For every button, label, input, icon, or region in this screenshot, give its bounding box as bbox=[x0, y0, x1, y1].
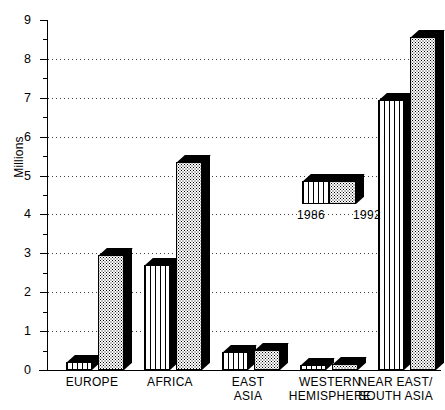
x-label-africa: AFRICA bbox=[127, 376, 213, 390]
y-minor-tick-5-5 bbox=[43, 156, 47, 157]
legend: 1986 1992 bbox=[297, 175, 417, 227]
bar-front-face bbox=[176, 162, 202, 370]
bar-africa-1992[interactable] bbox=[176, 162, 202, 370]
y-minor-tick-7-5 bbox=[43, 78, 47, 79]
y-tick-9: 9 bbox=[40, 20, 47, 21]
legend-label-1992: 1992 bbox=[353, 208, 381, 222]
y-tick-label-9: 9 bbox=[24, 14, 31, 27]
y-tick-label-4: 4 bbox=[24, 208, 31, 221]
bar-side-face bbox=[202, 155, 210, 370]
bar-africa-1986[interactable] bbox=[144, 265, 170, 370]
bar-east-asia-1992[interactable] bbox=[254, 350, 280, 370]
y-minor-tick-0-5 bbox=[43, 351, 47, 352]
y-tick-1: 1 bbox=[40, 331, 47, 332]
bar-europe-1986[interactable] bbox=[66, 362, 92, 370]
legend-side-face bbox=[356, 174, 364, 204]
y-axis-line bbox=[47, 20, 48, 370]
y-minor-tick-2-5 bbox=[43, 273, 47, 274]
y-tick-2: 2 bbox=[40, 292, 47, 293]
y-axis-title: Millions bbox=[12, 112, 26, 202]
x-axis-line bbox=[39, 370, 441, 371]
bar-east-asia-1986[interactable] bbox=[222, 352, 248, 370]
bar-front-face bbox=[222, 352, 248, 370]
x-label-near-east-south-asia: NEAR EAST/ SOUTH ASIA bbox=[350, 376, 441, 403]
y-tick-5: 5 bbox=[40, 176, 47, 177]
y-tick-label-6: 6 bbox=[24, 131, 31, 144]
bar-side-face bbox=[124, 248, 132, 370]
y-minor-tick-6-5 bbox=[43, 117, 47, 118]
bar-front-face bbox=[144, 265, 170, 370]
y-tick-label-1: 1 bbox=[24, 325, 31, 338]
y-tick-label-5: 5 bbox=[24, 170, 31, 183]
y-minor-tick-3-5 bbox=[43, 234, 47, 235]
legend-label-1986: 1986 bbox=[297, 208, 325, 222]
y-tick-8: 8 bbox=[40, 59, 47, 60]
bar-front-face bbox=[254, 350, 280, 370]
y-tick-3: 3 bbox=[40, 253, 47, 254]
y-tick-6: 6 bbox=[40, 137, 47, 138]
x-label-europe: EUROPE bbox=[49, 376, 135, 390]
y-tick-0: 0 bbox=[40, 370, 47, 371]
y-minor-tick-1-5 bbox=[43, 312, 47, 313]
bar-western-hemisphere-1986[interactable] bbox=[300, 365, 326, 370]
bar-front-face bbox=[66, 362, 92, 370]
y-tick-7: 7 bbox=[40, 98, 47, 99]
bar-front-face bbox=[300, 365, 326, 370]
y-tick-label-7: 7 bbox=[24, 92, 31, 105]
y-tick-label-2: 2 bbox=[24, 286, 31, 299]
y-tick-label-8: 8 bbox=[24, 53, 31, 66]
bar-europe-1992[interactable] bbox=[98, 255, 124, 370]
y-tick-4: 4 bbox=[40, 214, 47, 215]
bar-front-face bbox=[98, 255, 124, 370]
bar-western-hemisphere-1992[interactable] bbox=[332, 364, 358, 370]
bar-front-face bbox=[332, 364, 358, 370]
y-minor-tick-8-5 bbox=[43, 39, 47, 40]
y-tick-label-0: 0 bbox=[24, 364, 31, 377]
plot-area: 9 8 7 6 5 4 3 2 1 0 bbox=[47, 20, 441, 370]
legend-swatch-1992 bbox=[329, 181, 356, 204]
bar-front-face bbox=[378, 100, 404, 370]
gridline-8 bbox=[48, 59, 441, 60]
y-tick-label-3: 3 bbox=[24, 247, 31, 260]
bar-near-east-south-asia-1986[interactable] bbox=[378, 100, 404, 370]
y-minor-tick-4-5 bbox=[43, 195, 47, 196]
legend-swatch-1986 bbox=[302, 181, 329, 204]
bar-side-face bbox=[436, 30, 444, 370]
legend-swatch bbox=[302, 181, 356, 204]
